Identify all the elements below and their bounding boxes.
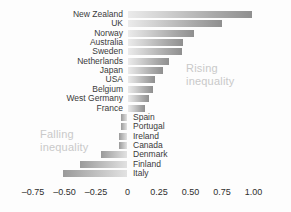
bar-row: UK — [0, 19, 291, 28]
bar — [63, 170, 127, 177]
bar-row: Norway — [0, 29, 291, 38]
bar-row: West Germany — [0, 94, 291, 103]
x-tick-label: 0.75 — [213, 186, 231, 198]
x-tick-label: 0.25 — [150, 186, 168, 198]
x-tick-label: 1.00 — [245, 186, 263, 198]
bar — [128, 11, 253, 18]
x-tick-label: –0.50 — [53, 186, 76, 198]
bar-row: Italy — [0, 169, 291, 178]
bar-row: Australia — [0, 38, 291, 47]
bar — [128, 39, 183, 46]
bar — [119, 133, 128, 140]
bar — [128, 76, 156, 83]
category-label: Italy — [133, 168, 149, 179]
bar — [128, 86, 153, 93]
bar-row: Netherlands — [0, 57, 291, 66]
category-label: France — [97, 103, 123, 114]
bar — [121, 123, 127, 130]
bar — [80, 161, 128, 168]
x-tick-label: 0.50 — [182, 186, 200, 198]
bar — [119, 142, 128, 149]
bar — [128, 20, 223, 27]
annotation-falling-inequality: Falling inequality — [40, 128, 88, 153]
bar-row: USA — [0, 75, 291, 84]
x-tick-label: 0 — [125, 186, 130, 198]
bar-row: New Zealand — [0, 10, 291, 19]
bar — [101, 151, 127, 158]
bar — [121, 114, 127, 121]
bar-row: Sweden — [0, 47, 291, 56]
annotation-rising-inequality: Rising inequality — [186, 62, 234, 87]
x-axis: –0.75–0.50–0.2500.250.500.751.00 — [0, 186, 291, 202]
x-tick-label: –0.25 — [85, 186, 108, 198]
bar-row: Belgium — [0, 85, 291, 94]
x-tick-label: –0.75 — [22, 186, 45, 198]
bar-row: Japan — [0, 66, 291, 75]
bar — [128, 48, 182, 55]
bar — [128, 67, 163, 74]
bar — [128, 95, 149, 102]
plot-area: New ZealandUKNorwayAustraliaSwedenNether… — [0, 8, 291, 180]
bar-chart: New ZealandUKNorwayAustraliaSwedenNether… — [0, 0, 291, 212]
bar — [128, 58, 170, 65]
bar — [128, 105, 146, 112]
bar — [128, 30, 195, 37]
